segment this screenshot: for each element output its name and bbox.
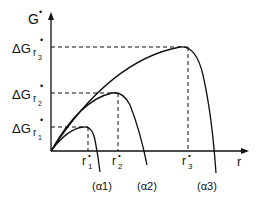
x-axis-arrow-icon <box>241 148 249 154</box>
curve-alpha-3 <box>51 47 216 173</box>
curve-label-alpha-3: (α3) <box>197 180 217 192</box>
peak-r3-label: r <box>182 154 186 168</box>
level-1-sub: r <box>33 127 37 138</box>
level-3-subsub: 3 <box>38 54 42 61</box>
curve-label-alpha-2: (α2) <box>137 180 157 192</box>
curve-alpha-2 <box>51 93 147 165</box>
peak-r3-star: • <box>188 151 191 160</box>
y-axis-arrow-icon <box>48 12 54 20</box>
peak-r1-sub: 1 <box>88 162 93 171</box>
level-2-label: ΔG <box>12 87 31 102</box>
peak-r2-label: r <box>112 154 116 168</box>
curve-alpha-1 <box>51 127 100 172</box>
guide-lines <box>51 47 188 151</box>
free-energy-diagram: G • ΔG r 3 • ΔG r 2 • ΔG r 1 • r 1 • r 2… <box>0 0 259 202</box>
peak-r1-label: r <box>82 154 86 168</box>
peak-r2-sub: 2 <box>118 162 123 171</box>
level-1-label: ΔG <box>12 121 31 136</box>
level-2-star: • <box>40 81 43 91</box>
peak-r2-star: • <box>118 151 121 160</box>
curve-label-alpha-1: (α1) <box>92 180 112 192</box>
peak-r3-sub: 3 <box>188 162 193 171</box>
level-3-label: ΔG <box>12 41 31 56</box>
level-1-subsub: 1 <box>38 134 42 141</box>
level-2-subsub: 2 <box>38 100 42 107</box>
y-axis-label: G <box>28 11 39 27</box>
level-3-sub: r <box>33 47 37 58</box>
level-2-sub: r <box>33 93 37 104</box>
level-1-star: • <box>40 115 43 125</box>
peak-r1-star: • <box>88 151 91 160</box>
x-axis-label: r <box>237 154 242 169</box>
y-axis-star: • <box>39 7 42 17</box>
level-3-star: • <box>40 35 43 45</box>
